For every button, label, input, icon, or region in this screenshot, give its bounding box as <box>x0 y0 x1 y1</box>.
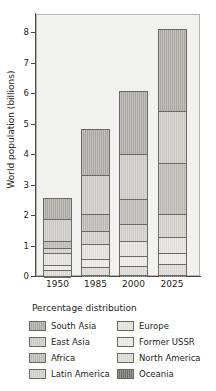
legend-swatch <box>29 337 46 347</box>
bar-segment-oceania <box>82 276 109 277</box>
y-axis-tick-label: 1 <box>0 242 29 251</box>
bar-2025 <box>158 29 187 276</box>
legend-grid: South AsiaEuropeEast AsiaFormer USSRAfri… <box>29 318 216 382</box>
y-axis-tick-label: 0 <box>0 272 29 281</box>
legend-item: Latin America <box>29 369 117 379</box>
y-axis-tick-label: 4 <box>0 150 29 159</box>
y-axis-tick-label: 8 <box>0 28 29 37</box>
legend-swatch <box>117 353 134 363</box>
y-axis-tick <box>31 124 35 125</box>
y-axis-tick <box>31 93 35 94</box>
bar-segment-europe <box>159 238 186 254</box>
y-axis-tick-label: 2 <box>0 211 29 220</box>
legend-label: South Asia <box>51 322 96 331</box>
y-axis-tick-label: 5 <box>0 120 29 129</box>
bar-segment-latin-america <box>82 232 109 244</box>
bar-segment-africa <box>82 215 109 232</box>
bar-segment-east-asia <box>120 155 147 200</box>
bar-1985 <box>81 129 110 276</box>
y-axis-tick <box>31 215 35 216</box>
bar-segment-oceania <box>120 276 147 277</box>
legend-swatch <box>29 321 46 331</box>
legend-label: Former USSR <box>139 338 195 347</box>
bar-segment-oceania <box>159 276 186 277</box>
x-axis-tick-label: 2000 <box>114 280 154 289</box>
y-axis-tick <box>31 185 35 186</box>
bar-segment-europe <box>120 242 147 258</box>
bar-segment-south-asia <box>120 92 147 155</box>
legend-item: Oceania <box>117 369 216 379</box>
y-axis-tick <box>31 276 35 277</box>
y-axis-tick <box>31 154 35 155</box>
y-axis-line <box>35 13 36 277</box>
legend-swatch <box>117 337 134 347</box>
bar-segment-africa <box>120 200 147 225</box>
bar-segment-south-asia <box>44 199 71 220</box>
legend-label: North America <box>139 354 201 363</box>
legend-label: Europe <box>139 322 169 331</box>
bar-segment-africa <box>159 164 186 215</box>
legend-item: North America <box>117 353 216 363</box>
legend-item: Africa <box>29 353 117 363</box>
legend-item: South Asia <box>29 321 117 331</box>
legend-title: Percentage distribution <box>32 303 216 314</box>
legend-label: Oceania <box>139 370 174 379</box>
bar-segment-south-asia <box>159 30 186 112</box>
bar-segment-east-asia <box>82 176 109 216</box>
y-axis-tick <box>31 63 35 64</box>
x-axis-tick-label: 2025 <box>152 280 192 289</box>
bar-segment-north-america <box>120 267 147 276</box>
bar-segment-east-asia <box>44 220 71 242</box>
y-axis-tick <box>31 246 35 247</box>
legend-swatch <box>117 369 134 379</box>
bar-segment-latin-america <box>159 215 186 238</box>
legend-swatch <box>29 353 46 363</box>
y-axis-tick-label: 6 <box>0 89 29 98</box>
bar-segment-north-america <box>82 268 109 276</box>
bar-segment-former-ussr <box>159 254 186 265</box>
bar-segment-latin-america <box>120 225 147 241</box>
bar-2000 <box>119 91 148 276</box>
bar-segment-north-america <box>159 265 186 276</box>
y-axis-title: World population (billions) <box>7 60 16 200</box>
bar-segment-africa <box>44 242 71 249</box>
y-axis-tick <box>31 32 35 33</box>
legend-label: Latin America <box>51 370 110 379</box>
y-axis-tick-label: 7 <box>0 59 29 68</box>
bar-segment-east-asia <box>159 112 186 164</box>
bar-segment-south-asia <box>82 130 109 175</box>
bar-1950 <box>43 198 72 276</box>
legend-item: Former USSR <box>117 337 216 347</box>
legend-item: East Asia <box>29 337 117 347</box>
legend-swatch <box>117 321 134 331</box>
bar-segment-former-ussr <box>82 260 109 268</box>
y-axis-tick-label: 3 <box>0 181 29 190</box>
x-axis-tick-label: 1985 <box>76 280 116 289</box>
bar-segment-former-ussr <box>120 257 147 266</box>
legend-item: Europe <box>117 321 216 331</box>
legend-label: Africa <box>51 354 75 363</box>
legend-label: East Asia <box>51 338 90 347</box>
legend: Percentage distribution South AsiaEurope… <box>29 303 216 382</box>
bar-segment-europe <box>82 245 109 260</box>
x-axis-tick-label: 1950 <box>38 280 78 289</box>
legend-swatch <box>29 369 46 379</box>
bar-segment-europe <box>44 254 71 266</box>
